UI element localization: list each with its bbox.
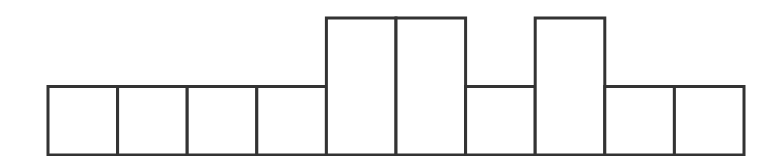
bar-1 — [48, 87, 118, 156]
bar-2 — [118, 87, 188, 156]
bar-chart — [0, 0, 782, 156]
bar-7 — [466, 87, 536, 156]
bar-9 — [605, 87, 675, 156]
bars-group — [48, 18, 744, 155]
bar-6 — [396, 18, 466, 155]
bar-10 — [674, 87, 744, 156]
bar-5 — [326, 18, 396, 155]
bar-8 — [535, 18, 605, 155]
bar-4 — [257, 87, 327, 156]
bar-3 — [187, 87, 257, 156]
